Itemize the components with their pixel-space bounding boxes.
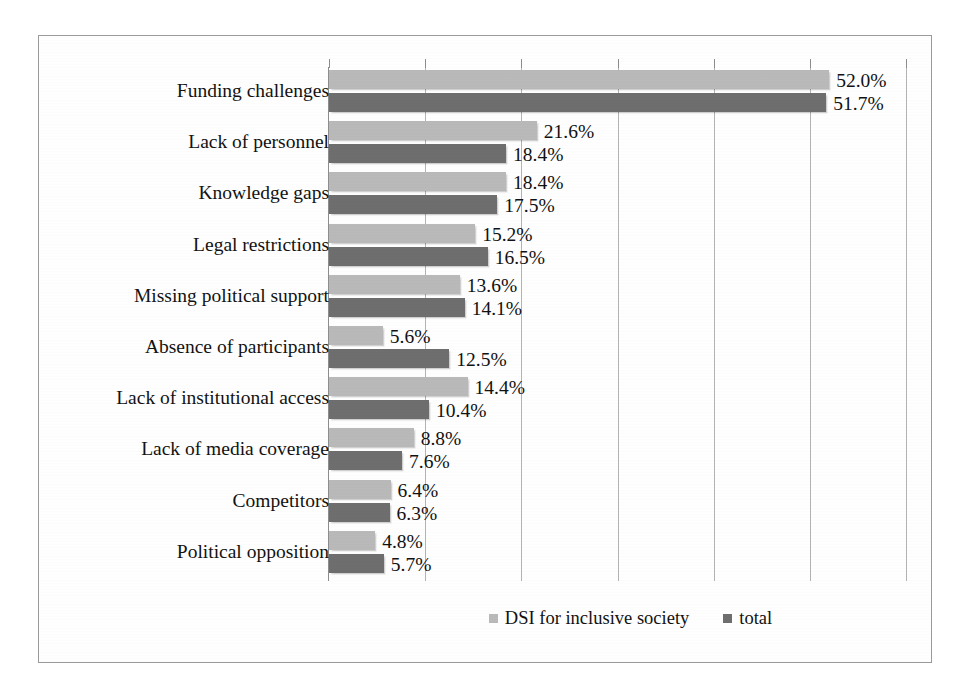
axis-tick-30 xyxy=(618,59,619,68)
category-label: Absence of participants xyxy=(29,337,329,357)
bar-value-label: 21.6% xyxy=(544,122,594,142)
bar[interactable] xyxy=(329,275,460,294)
bar[interactable] xyxy=(329,93,826,112)
bar[interactable] xyxy=(329,451,402,470)
bar[interactable] xyxy=(329,503,390,522)
bar-value-label: 18.4% xyxy=(513,173,563,193)
legend-label: total xyxy=(739,608,772,629)
category-label: Legal restrictions xyxy=(29,235,329,255)
bar[interactable] xyxy=(329,349,449,368)
category-label: Lack of personnel xyxy=(29,132,329,152)
category-label: Funding challenges xyxy=(29,81,329,101)
chart-frame: 52.0%51.7%21.6%18.4%18.4%17.5%15.2%16.5%… xyxy=(38,35,932,663)
bar-chart-plot-area: 52.0%51.7%21.6%18.4%18.4%17.5%15.2%16.5%… xyxy=(39,36,933,664)
axis-tick-60 xyxy=(906,59,907,68)
bar-value-label: 51.7% xyxy=(833,94,883,114)
bar-value-label: 6.3% xyxy=(397,504,438,524)
bar[interactable] xyxy=(329,247,488,266)
bar-value-label: 10.4% xyxy=(436,401,486,421)
legend-item[interactable]: DSI for inclusive society xyxy=(489,608,689,629)
category-label: Lack of media coverage xyxy=(29,439,329,459)
bar-value-label: 4.8% xyxy=(382,532,423,552)
bar[interactable] xyxy=(329,224,475,243)
bar-value-label: 14.1% xyxy=(472,299,522,319)
bar[interactable] xyxy=(329,298,465,317)
category-label: Lack of institutional access xyxy=(29,388,329,408)
bar[interactable] xyxy=(329,480,391,499)
bar-value-label: 12.5% xyxy=(456,350,506,370)
axis-tick-40 xyxy=(714,59,715,68)
bar[interactable] xyxy=(329,554,384,573)
gridline-40 xyxy=(714,67,715,581)
bar-value-label: 13.6% xyxy=(467,276,517,296)
axis-tick-10 xyxy=(425,59,426,68)
bar-value-label: 52.0% xyxy=(836,71,886,91)
bar-value-label: 7.6% xyxy=(409,452,450,472)
legend-swatch-icon xyxy=(723,614,732,623)
bar[interactable] xyxy=(329,121,537,140)
bar[interactable] xyxy=(329,326,383,345)
bar-value-label: 18.4% xyxy=(513,145,563,165)
category-label: Knowledge gaps xyxy=(29,183,329,203)
bar-value-label: 15.2% xyxy=(482,225,532,245)
chart-legend: DSI for inclusive societytotal xyxy=(328,608,933,629)
category-label: Missing political support xyxy=(29,286,329,306)
axis-tick-0 xyxy=(329,59,330,68)
axis-tick-50 xyxy=(810,59,811,68)
bar[interactable] xyxy=(329,70,829,89)
legend-label: DSI for inclusive society xyxy=(505,608,689,629)
bar-value-label: 16.5% xyxy=(495,248,545,268)
bar-value-label: 8.8% xyxy=(421,429,462,449)
gridline-60 xyxy=(906,67,907,581)
bar[interactable] xyxy=(329,172,506,191)
axis-tick-20 xyxy=(521,59,522,68)
category-label: Competitors xyxy=(29,491,329,511)
legend-item[interactable]: total xyxy=(723,608,772,629)
bar[interactable] xyxy=(329,531,375,550)
category-label: Political opposition xyxy=(29,542,329,562)
bar-value-label: 17.5% xyxy=(504,196,554,216)
bar[interactable] xyxy=(329,400,429,419)
bar-value-label: 5.6% xyxy=(390,327,431,347)
bar-value-label: 5.7% xyxy=(391,555,432,575)
bar[interactable] xyxy=(329,428,414,447)
legend-swatch-icon xyxy=(489,614,498,623)
bar[interactable] xyxy=(329,377,468,396)
bar[interactable] xyxy=(329,195,497,214)
bar[interactable] xyxy=(329,144,506,163)
gridline-30 xyxy=(618,67,619,581)
gridline-50 xyxy=(810,67,811,581)
bar-value-label: 14.4% xyxy=(475,378,525,398)
bar-value-label: 6.4% xyxy=(398,481,439,501)
